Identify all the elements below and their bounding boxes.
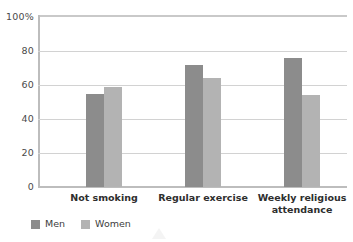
bar-women xyxy=(203,78,221,187)
y-axis-tick-label: 60 xyxy=(0,80,34,90)
y-axis-tick-label: 80 xyxy=(0,46,34,56)
legend-label-men: Men xyxy=(45,219,65,229)
bar-men xyxy=(284,58,302,187)
legend-item-women[interactable]: Women xyxy=(81,219,131,229)
y-axis-tick-label: 100% xyxy=(0,12,34,22)
bar-women xyxy=(302,95,320,187)
y-axis-tick-label: 0 xyxy=(0,182,34,192)
y-axis-tick-label: 40 xyxy=(0,114,34,124)
legend-label-women: Women xyxy=(95,219,131,229)
x-axis-category-label: Regular exercise xyxy=(148,192,258,204)
bars-layer xyxy=(38,17,347,187)
legend-swatch-men-icon xyxy=(31,220,40,229)
bar-chart: 020406080100% Not smokingRegular exercis… xyxy=(0,0,353,242)
legend-item-men[interactable]: Men xyxy=(31,219,65,229)
bar-men xyxy=(86,94,104,188)
x-axis-category-label: Not smoking xyxy=(49,192,159,204)
plot-area xyxy=(38,17,347,187)
y-axis-tick-label: 20 xyxy=(0,148,34,158)
scan-artifact xyxy=(152,228,166,239)
x-axis-category-label: Weekly religious attendance xyxy=(247,192,353,215)
legend-swatch-women-icon xyxy=(81,220,90,229)
bar-men xyxy=(185,65,203,187)
chart-legend: Men Women xyxy=(31,219,131,229)
bar-women xyxy=(104,87,122,187)
